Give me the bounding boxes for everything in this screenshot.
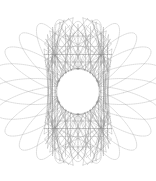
center-lens-hole bbox=[57, 70, 99, 114]
spirograph-figure: spirograph-rose-envelope bbox=[0, 0, 156, 181]
